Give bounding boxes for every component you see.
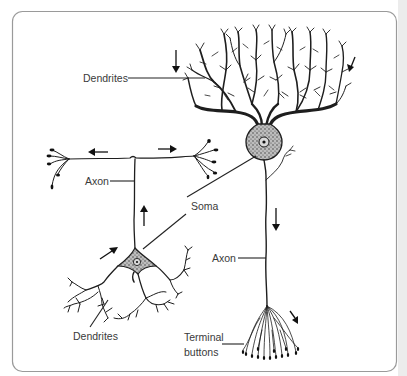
label-terminal-buttons-line2: buttons (184, 346, 218, 358)
label-dendrites-top: Dendrites (83, 72, 128, 84)
label-soma: Soma (191, 200, 219, 212)
label-dendrites-bottom: Dendrites (73, 330, 118, 342)
label-terminal-buttons-line1: Terminal (184, 331, 224, 343)
right-neuron-soma (246, 124, 282, 160)
label-axon-right: Axon (212, 252, 236, 264)
label-axon-left: Axon (85, 175, 109, 187)
neuron-diagram: Dendrites Axon Soma Axon Dendrites Termi… (0, 0, 407, 376)
